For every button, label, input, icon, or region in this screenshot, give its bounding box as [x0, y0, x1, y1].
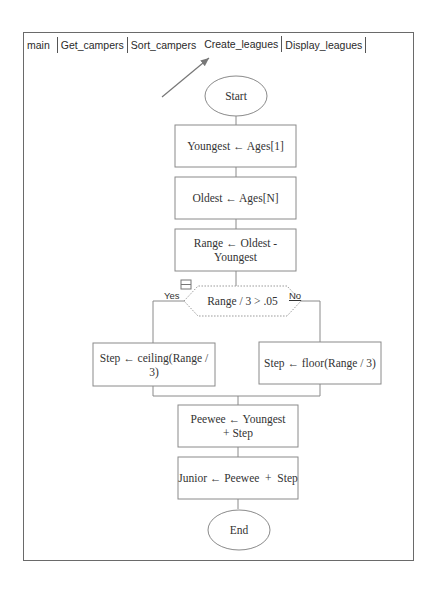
end-label: End	[208, 510, 270, 550]
start-label: Start	[205, 76, 267, 116]
no-branch-label: No	[289, 290, 301, 301]
process-oldest-label: Oldest ← Ages[N]	[175, 177, 296, 219]
process-step-ceiling-label: Step ← ceiling(Range / 3)	[93, 343, 215, 386]
process-step-floor-label: Step ← floor(Range / 3)	[259, 342, 381, 384]
annotation-arrow-icon	[162, 58, 209, 97]
decision-label: Range / 3 > .05	[198, 286, 287, 316]
yes-branch-label: Yes	[164, 290, 180, 301]
process-junior-label: Junior ← Peewee + Step	[178, 457, 298, 499]
process-range-label: Range ← Oldest - Youngest	[175, 229, 296, 271]
collapse-icon[interactable]	[181, 280, 191, 289]
process-youngest-label: Youngest ← Ages[1]	[175, 125, 296, 167]
process-peewee-label: Peewee ← Youngest + Step	[178, 405, 298, 447]
